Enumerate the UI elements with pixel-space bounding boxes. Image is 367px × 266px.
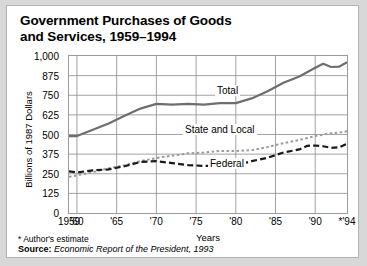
y-axis-tick-label: 750 (42, 90, 59, 101)
y-axis-tick-label: 1,000 (34, 51, 59, 62)
chart-figure: Government Purchases of Goods and Servic… (6, 5, 359, 258)
source-text: Economic Report of the President, 1993 (54, 244, 214, 254)
chart-title: Government Purchases of Goods and Servic… (20, 13, 340, 44)
chart-title-line1: Government Purchases of Goods (20, 13, 232, 28)
x-axis-labels: 1959'60'65'70'75'80'85'90*'94 (68, 216, 348, 230)
x-axis-tick-label: '65 (110, 216, 123, 227)
x-axis-title: Years (68, 232, 348, 243)
y-axis-tick-label: 875 (42, 70, 59, 81)
y-axis-tick-label: 625 (42, 109, 59, 120)
x-axis-tick-label: '85 (269, 216, 282, 227)
series-label-federal: Federal (208, 158, 246, 169)
x-axis-tick-label: '90 (309, 216, 322, 227)
y-axis-tick-label: 125 (42, 188, 59, 199)
footnote-authors-estimate: * Author's estimate (18, 234, 89, 244)
chart-title-line2: and Services, 1959–1994 (20, 29, 340, 45)
y-axis-tick-label: 250 (42, 168, 59, 179)
y-axis-title: Billions of 1987 Dollars (23, 75, 34, 205)
y-axis-labels: 01252503755006257508751,000 (7, 55, 64, 214)
y-axis-tick-label: 375 (42, 149, 59, 160)
x-axis-tick-label: *'94 (339, 216, 356, 227)
x-axis-tick-label: '70 (150, 216, 163, 227)
x-axis-tick-label: '75 (190, 216, 203, 227)
series-label-state-and-local: State and Local (183, 124, 257, 135)
source-label: Source: (18, 244, 52, 254)
y-axis-tick-label: 500 (42, 129, 59, 140)
footnote-source: Source: Economic Report of the President… (18, 244, 214, 254)
x-axis-tick-label: '80 (229, 216, 242, 227)
series-label-total: Total (215, 85, 240, 96)
x-axis-tick-label: '60 (70, 216, 83, 227)
